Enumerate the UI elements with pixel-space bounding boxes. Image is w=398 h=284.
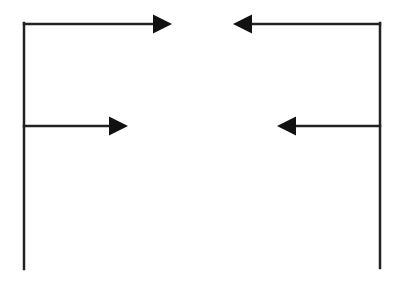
arrow-diagram: [0, 0, 398, 284]
diagram-background: [0, 0, 398, 284]
